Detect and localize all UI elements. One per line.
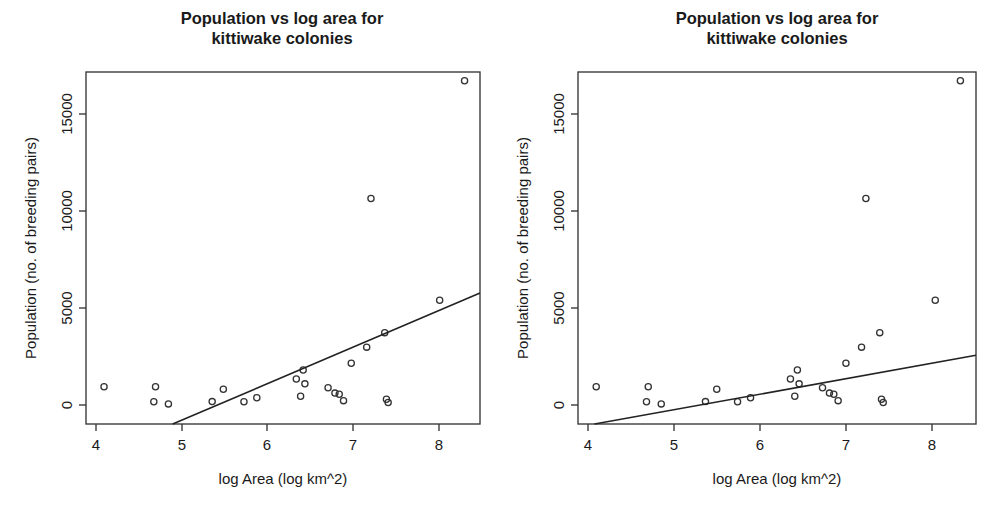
right-panel-xtick-5: 5	[670, 436, 678, 453]
left-panel-background	[0, 0, 497, 511]
figure-root: Population vs log area for kittiwake col…	[0, 0, 994, 511]
right-panel-title-line2: kittiwake colonies	[706, 29, 847, 47]
left-panel-ytick-10000: 10000	[58, 190, 75, 232]
right-panel-xtick-7: 7	[842, 436, 850, 453]
right-panel-plot: Population vs log area for kittiwake col…	[497, 0, 994, 511]
left-panel-title-line1: Population vs log area for	[181, 9, 384, 27]
right-panel: Population vs log area for kittiwake col…	[497, 0, 994, 511]
left-panel-title-line2: kittiwake colonies	[211, 29, 352, 47]
left-panel-x-axis-title: log Area (log km^2)	[219, 470, 348, 487]
left-panel-xtick-6: 6	[263, 436, 271, 453]
right-panel-y-axis-title: Population (no. of breeding pairs)	[514, 137, 531, 359]
right-panel-ytick-15000: 15000	[550, 93, 567, 135]
right-panel-x-axis-title: log Area (log km^2)	[713, 470, 842, 487]
right-panel-background	[497, 0, 994, 511]
left-panel-xtick-4: 4	[92, 436, 100, 453]
left-panel-ytick-0: 0	[58, 401, 75, 409]
left-panel: Population vs log area for kittiwake col…	[0, 0, 497, 511]
right-panel-ytick-10000: 10000	[550, 190, 567, 232]
left-panel-xtick-8: 8	[435, 436, 443, 453]
left-panel-xtick-7: 7	[349, 436, 357, 453]
left-panel-ytick-5000: 5000	[58, 291, 75, 324]
right-panel-xtick-4: 4	[584, 436, 592, 453]
right-panel-xtick-6: 6	[756, 436, 764, 453]
right-panel-ytick-0: 0	[550, 401, 567, 409]
right-panel-xtick-8: 8	[928, 436, 936, 453]
right-panel-title-line1: Population vs log area for	[676, 9, 879, 27]
left-panel-xtick-5: 5	[178, 436, 186, 453]
left-panel-y-axis-title: Population (no. of breeding pairs)	[22, 137, 39, 359]
right-panel-ytick-5000: 5000	[550, 291, 567, 324]
left-panel-plot: Population vs log area for kittiwake col…	[0, 0, 497, 511]
left-panel-ytick-15000: 15000	[58, 93, 75, 135]
